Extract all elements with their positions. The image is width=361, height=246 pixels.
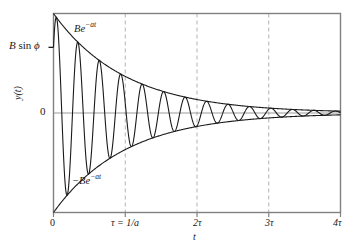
upper-envelope-exponent: −at [85, 20, 96, 29]
upper-envelope-label: Be−at [74, 21, 96, 34]
upper-envelope-base: Be [74, 23, 85, 34]
amplitude-phase: ϕ [34, 39, 40, 51]
lower-envelope-exponent: −at [90, 172, 101, 181]
x-tick-label-4tau: 4τ [333, 218, 342, 228]
x-tick-label-tau: τ = 1/a [111, 218, 139, 228]
plot-canvas [0, 0, 361, 246]
figure-damped-oscillation: B sin ϕ Be−at −Be−at 0 y(t) t 0 τ = 1/a … [0, 0, 361, 246]
x-tick-label-3tau: 3τ [265, 218, 274, 228]
y-axis-label: y(t) [13, 86, 23, 100]
amplitude-fn: sin [18, 39, 31, 51]
amplitude-annotation: B sin ϕ [9, 40, 40, 51]
x-tick-label-0: 0 [50, 218, 55, 228]
lower-envelope-label: −Be−at [72, 173, 101, 186]
amplitude-prefix: B [9, 39, 16, 51]
x-tick-label-2tau: 2τ [193, 218, 202, 228]
y-zero-tick-label: 0 [40, 106, 46, 117]
lower-envelope-base: −Be [72, 175, 90, 186]
x-axis-label: t [193, 232, 196, 242]
